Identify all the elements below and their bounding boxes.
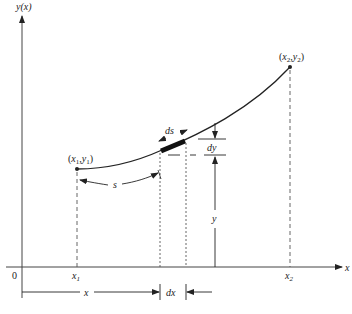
end-point-label: (x2,y2) <box>279 51 304 64</box>
dx-label: dx <box>166 287 176 298</box>
x-distance-label: x <box>83 287 89 298</box>
ds-label: ds <box>165 125 174 136</box>
y-axis-label: y(x) <box>15 1 32 13</box>
x1-tick-label: x1 <box>71 270 80 283</box>
start-point-label: (x1,y1) <box>68 153 93 166</box>
arc-length-diagram: y(x) x 0 (x1,y1) (x2,y2) x1 x2 s ds <box>0 0 352 314</box>
arc-length-arrow <box>80 170 161 185</box>
arc-element-ds <box>161 141 185 151</box>
dashed-guides <box>77 70 290 267</box>
origin-label: 0 <box>12 270 17 281</box>
curve <box>77 67 290 169</box>
height-y-label: y <box>211 213 217 224</box>
x-axis-label: x <box>344 262 350 273</box>
dy-label: dy <box>207 142 217 153</box>
x-distance-arrow <box>22 284 212 300</box>
x2-tick-label: x2 <box>284 270 293 283</box>
start-point <box>75 167 79 171</box>
end-point <box>288 65 292 69</box>
arc-length-label: s <box>113 179 117 190</box>
